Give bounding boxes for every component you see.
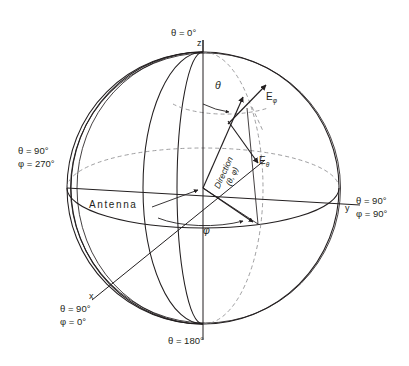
- e-phi-subscript: φ: [273, 97, 277, 104]
- e-phi-symbol: E: [266, 91, 273, 102]
- e-phi-vector: [228, 85, 266, 124]
- theta-angle-arc: [203, 104, 229, 112]
- e-phi-label: Eφ: [266, 91, 277, 104]
- e-theta-subscript: θ: [266, 161, 270, 168]
- theta-180-label: θ = 180°: [168, 335, 204, 347]
- x-theta-label: θ = 90°: [60, 302, 90, 315]
- e-theta-vector: [228, 121, 258, 163]
- meridian-xz-front: [143, 52, 203, 324]
- x-phi-label: φ = 0°: [60, 315, 86, 328]
- antenna-leader-line: [152, 190, 198, 207]
- z-axis-letter: z: [197, 38, 202, 48]
- spherical-coordinate-diagram: θ = 0° z θ = 180° θ = 90° φ = 270° y θ =…: [0, 0, 409, 366]
- meridian-xz-back: [203, 52, 263, 324]
- x-axis: [92, 160, 265, 300]
- phi-angle-label: φ: [203, 224, 210, 236]
- direction-vertical-drop: [247, 108, 258, 224]
- antenna-label: Antenna: [89, 199, 137, 210]
- y-axis-letter: y: [345, 203, 350, 213]
- theta-0-label: θ = 0°: [171, 27, 196, 39]
- minus-y-theta-label: θ = 90°: [18, 144, 48, 157]
- theta-angle-label: θ: [215, 79, 221, 91]
- y-phi-label: φ = 90°: [356, 207, 387, 220]
- x-axis-letter: x: [89, 291, 94, 301]
- sphere-outline-secondary: [71, 53, 341, 323]
- equatorial-baseline: [203, 188, 258, 224]
- phi-angle-arc: [158, 218, 243, 226]
- constant-theta-cone-arc: [173, 104, 268, 114]
- e-theta-symbol: E: [259, 155, 266, 166]
- y-theta-label: θ = 90°: [356, 194, 386, 207]
- minus-y-phi-label: φ = 270°: [18, 157, 55, 170]
- e-theta-label: Eθ: [259, 155, 269, 168]
- meridian-direction-plane: [177, 52, 203, 324]
- meridian-yz-front: [71, 52, 203, 324]
